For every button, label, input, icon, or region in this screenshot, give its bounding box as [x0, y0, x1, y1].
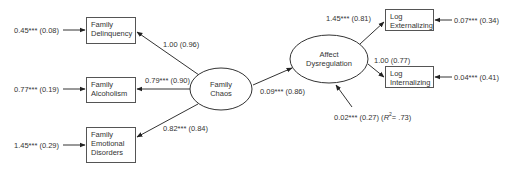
box-label-line: Log	[390, 69, 433, 78]
path-arrows	[0, 0, 511, 169]
disturbance-arrow	[336, 85, 352, 107]
latent-label-line: Dysregulation	[306, 59, 352, 68]
box-label-line: Emotional	[91, 139, 135, 148]
box-label-line: Internalizing	[390, 78, 433, 87]
log-internalizing-box: Log Internalizing	[385, 66, 434, 88]
loading-label-emotional: 0.82*** (0.84)	[163, 124, 208, 133]
family-emotional-disorders-box: Family Emotional Disorders	[86, 127, 136, 163]
latent-label-line: Family	[210, 80, 232, 89]
error-label-internalizing: 0.04*** (0.41)	[454, 73, 499, 82]
box-label-line: Log	[390, 12, 433, 21]
box-label-line: Family	[91, 80, 135, 89]
loading-label-internalizing: 1.00 (0.77)	[374, 56, 410, 65]
error-label-alcoholism: 0.77*** (0.19)	[14, 85, 59, 94]
box-label-line: Disorders	[91, 148, 135, 157]
disturbance-value: 0.02*** (0.27) (	[334, 113, 384, 122]
loading-label-externalizing: 1.45*** (0.81)	[326, 14, 371, 23]
error-label-emotional: 1.45*** (0.29)	[14, 141, 59, 150]
box-label-line: Family	[91, 20, 135, 29]
path-arrow-chaos-dysregulation	[253, 68, 292, 85]
family-chaos-label: Family Chaos	[190, 68, 252, 110]
latent-label-line: Affect	[306, 50, 352, 59]
affect-dysregulation-label: Affect Dysregulation	[290, 35, 368, 83]
path-label-chaos-dysregulation: 0.09*** (0.86)	[260, 87, 305, 96]
error-label-externalizing: 0.07*** (0.34)	[454, 16, 499, 25]
box-label-line: Family	[91, 130, 135, 139]
loading-label-alcoholism: 0.79*** (0.90)	[145, 76, 190, 85]
family-delinquency-box: Family Delinquency	[86, 17, 136, 44]
loading-label-delinquency: 1.00 (0.96)	[163, 40, 199, 49]
loading-arrow-internalizing	[368, 64, 384, 77]
r-squared-value: = .73)	[392, 113, 411, 122]
box-label-line: Externalizing	[390, 21, 433, 30]
error-label-delinquency: 0.45*** (0.08)	[14, 26, 59, 35]
family-alcoholism-box: Family Alcoholism	[86, 77, 136, 103]
latent-label-line: Chaos	[210, 89, 232, 98]
log-externalizing-box: Log Externalizing	[385, 9, 434, 31]
disturbance-label: 0.02*** (0.27) (R2= .73)	[334, 110, 411, 122]
box-label-line: Delinquency	[91, 29, 135, 38]
box-label-line: Alcoholism	[91, 89, 135, 98]
